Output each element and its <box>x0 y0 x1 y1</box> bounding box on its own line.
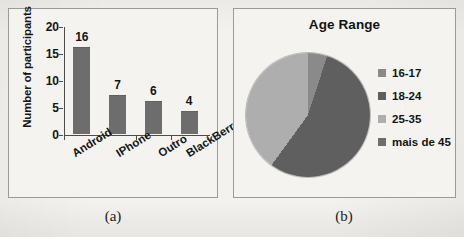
legend-swatch-icon <box>378 92 386 100</box>
bar-chart-x-label-outro: Outro <box>156 132 189 159</box>
caption-a: (a) <box>83 208 143 225</box>
bar-chart-y-tick-labels: 05101520 <box>33 9 59 134</box>
bar-chart-x-tickmark <box>207 135 208 140</box>
legend-label: mais de 45 <box>392 136 451 148</box>
pie-chart-graphic <box>246 53 370 177</box>
panel-bar-chart: Number of participants 05101520 16764 An… <box>8 8 218 198</box>
legend-item: mais de 45 <box>378 136 451 148</box>
bar-chart-plot-area: 16764 <box>64 27 207 134</box>
bar-group: 7 <box>100 27 136 134</box>
bar <box>73 47 90 134</box>
bar-chart-y-tickmark <box>59 135 63 136</box>
bar-chart-y-tickmark <box>59 108 63 109</box>
bar-chart-y-axis-title: Number of participants <box>21 2 33 132</box>
figure-container: Number of participants 05101520 16764 An… <box>0 0 464 237</box>
legend-item: 16-17 <box>378 67 451 79</box>
bar <box>145 101 162 134</box>
bar-chart-y-tick-10: 10 <box>37 74 59 88</box>
caption-b: (b) <box>314 208 374 225</box>
bar-chart-y-tick-20: 20 <box>37 20 59 34</box>
bar-chart-y-tick-15: 15 <box>37 47 59 61</box>
legend-swatch-icon <box>378 69 386 77</box>
bar-group: 16 <box>64 27 100 134</box>
bar-chart-x-tickmark <box>136 135 137 140</box>
bar-chart-y-tickmark <box>59 27 63 28</box>
bar-chart-y-tick-0: 0 <box>37 128 59 142</box>
pie-chart-legend: 16-1718-2425-35mais de 45 <box>378 67 451 148</box>
bar-chart-x-tickmark <box>64 135 65 140</box>
legend-label: 16-17 <box>392 67 421 79</box>
bar-value-label: 7 <box>114 78 121 92</box>
bar-group: 6 <box>136 27 172 134</box>
legend-label: 18-24 <box>392 90 421 102</box>
bar-chart-x-tickmark <box>100 135 101 140</box>
bar-chart-y-tickmark <box>59 81 63 82</box>
bar-chart-x-tickmark <box>171 135 172 140</box>
bar-value-label: 6 <box>150 84 157 98</box>
legend-item: 25-35 <box>378 113 451 125</box>
bar-group: 4 <box>171 27 207 134</box>
panel-pie-chart: Age Range 16-1718-2425-35mais de 45 <box>233 8 456 198</box>
legend-label: 25-35 <box>392 113 421 125</box>
legend-swatch-icon <box>378 115 386 123</box>
bar-chart-y-tickmark <box>59 54 63 55</box>
bar-chart-y-tick-5: 5 <box>37 101 59 115</box>
pie-chart-plot-area <box>246 53 370 177</box>
bar <box>181 111 198 134</box>
bar <box>109 95 126 134</box>
legend-swatch-icon <box>378 138 386 146</box>
legend-item: 18-24 <box>378 90 451 102</box>
bar-value-label: 16 <box>75 30 88 44</box>
pie-chart-title: Age Range <box>234 17 455 32</box>
bar-value-label: 4 <box>186 94 193 108</box>
